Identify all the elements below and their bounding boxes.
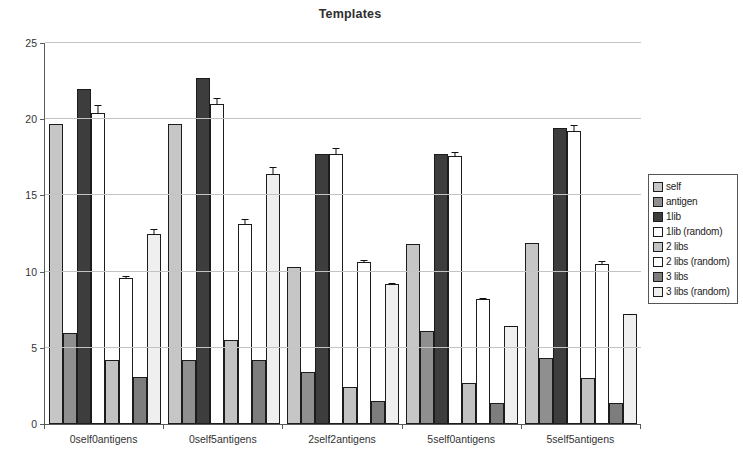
legend-label: self xyxy=(666,181,681,192)
legend-swatch xyxy=(653,242,663,252)
bar-3-libs xyxy=(490,403,504,424)
legend-swatch xyxy=(653,227,663,237)
error-bar-cap xyxy=(213,98,220,99)
legend-item-3-libs: 3 libs xyxy=(653,269,734,284)
legend-label: antigen xyxy=(666,196,697,207)
error-bar-cap xyxy=(94,105,101,106)
error-bar xyxy=(630,314,631,316)
bar-self xyxy=(168,124,182,424)
error-bar-cap xyxy=(627,314,634,315)
bar-2-libs xyxy=(105,360,119,424)
legend-label: 3 libs (random) xyxy=(666,286,730,297)
y-tick-label: 0 xyxy=(17,418,37,430)
bar-1lib-random xyxy=(567,131,581,424)
x-axis-label-0self5antigens: 0self5antigens xyxy=(189,433,257,445)
error-bar xyxy=(125,276,126,279)
x-axis-label-5self0antigens: 5self0antigens xyxy=(427,433,495,445)
x-tick xyxy=(521,425,522,429)
legend-swatch xyxy=(653,212,663,222)
error-bar-cap xyxy=(389,283,396,284)
error-bar-cap xyxy=(571,125,578,126)
y-tick-label: 15 xyxy=(17,189,37,201)
y-tick-label: 25 xyxy=(17,37,37,49)
bar-2-libs-random xyxy=(238,224,252,424)
legend-item-1lib-random: 1lib (random) xyxy=(653,224,734,239)
error-bar-cap xyxy=(269,167,276,168)
bar-3-libs-random xyxy=(623,314,637,424)
error-bar xyxy=(153,229,154,234)
x-tick xyxy=(163,425,164,429)
x-tick xyxy=(402,425,403,429)
legend-label: 1lib xyxy=(666,211,681,222)
legend-label: 2 libs (random) xyxy=(666,256,730,267)
bar-3-libs xyxy=(133,377,147,424)
error-bar xyxy=(511,326,512,328)
error-bar xyxy=(483,298,484,300)
y-tick-label: 5 xyxy=(17,342,37,354)
bar-1lib xyxy=(196,78,210,424)
error-bar xyxy=(574,125,575,133)
bar-2-libs xyxy=(462,383,476,424)
error-bar-cap xyxy=(333,148,340,149)
bar-3-libs xyxy=(609,403,623,424)
y-tick-label: 20 xyxy=(17,113,37,125)
x-axis-label-5self5antigens: 5self5antigens xyxy=(547,433,615,445)
legend-swatch xyxy=(653,272,663,282)
error-bar xyxy=(336,148,337,156)
bar-3-libs xyxy=(371,401,385,424)
bar-antigen xyxy=(301,372,315,424)
legend-swatch xyxy=(653,182,663,192)
gridline-y15 xyxy=(45,194,641,195)
error-bar-cap xyxy=(452,152,459,153)
gridline-y5 xyxy=(45,347,641,348)
bar-group-0self5antigens xyxy=(164,43,283,424)
bar-2-libs xyxy=(581,378,595,424)
bar-2-libs-random xyxy=(119,278,133,424)
legend-item-3-libs-random: 3 libs (random) xyxy=(653,284,734,299)
bar-1lib-random xyxy=(448,156,462,424)
error-bar-cap xyxy=(480,298,487,299)
plot-area xyxy=(44,43,641,425)
bar-3-libs xyxy=(252,360,266,424)
bar-group-0self0antigens xyxy=(45,43,164,424)
error-bar xyxy=(97,105,98,114)
legend-item-2-libs-random: 2 libs (random) xyxy=(653,254,734,269)
error-bar-cap xyxy=(122,276,129,277)
x-tick xyxy=(640,425,641,429)
bar-2-libs-random xyxy=(595,264,609,424)
error-bar-cap xyxy=(361,260,368,261)
error-bar xyxy=(244,219,245,225)
y-tick-label: 10 xyxy=(17,266,37,278)
legend-label: 3 libs xyxy=(666,271,688,282)
x-tick xyxy=(44,425,45,429)
bar-group-5self5antigens xyxy=(522,43,641,424)
legend-label: 1lib (random) xyxy=(666,226,722,237)
error-bar-cap xyxy=(508,326,515,327)
legend-item-self: self xyxy=(653,179,734,194)
bar-group-2self2antigens xyxy=(283,43,402,424)
error-bar xyxy=(364,260,365,263)
bar-1lib-random xyxy=(91,113,105,424)
bar-3-libs-random xyxy=(504,326,518,424)
legend: selfantigen1lib1lib (random)2 libs2 libs… xyxy=(648,174,738,304)
bar-self xyxy=(49,124,63,424)
bar-antigen xyxy=(182,360,196,424)
x-axis-label-0self0antigens: 0self0antigens xyxy=(70,433,138,445)
bar-group-5self0antigens xyxy=(403,43,522,424)
error-bar-cap xyxy=(150,229,157,230)
error-bar-cap xyxy=(599,261,606,262)
gridline-y20 xyxy=(45,118,641,119)
bar-2-libs-random xyxy=(357,262,371,424)
y-tick xyxy=(40,119,44,120)
bar-1lib xyxy=(77,89,91,424)
legend-swatch xyxy=(653,197,663,207)
chart-figure: Templates selfantigen1lib1lib (random)2 … xyxy=(0,0,743,456)
bar-groups xyxy=(45,43,641,424)
error-bar xyxy=(272,167,273,175)
legend-item-1lib: 1lib xyxy=(653,209,734,224)
x-axis-label-2self2antigens: 2self2antigens xyxy=(308,433,376,445)
chart-title: Templates xyxy=(0,7,700,21)
x-tick xyxy=(282,425,283,429)
y-tick xyxy=(40,272,44,273)
bar-1lib-random xyxy=(210,104,224,424)
